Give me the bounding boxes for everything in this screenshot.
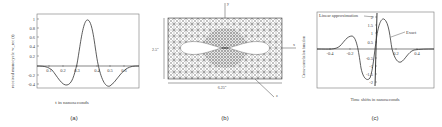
- panel-b: y x z 2.5" 6.25" (b): [150, 0, 300, 127]
- x-tick-label: 0.2: [60, 68, 66, 73]
- y-tick-label: 1: [371, 31, 373, 36]
- y-tick-label: -2: [369, 80, 373, 85]
- linear-approximation-annotation: Linear approximation: [319, 13, 359, 18]
- height-dimension-label: 2.5": [152, 47, 159, 52]
- panel-a: 10.80.60.40.2-0.2-0.4 0.10.20.30.40.50.6…: [0, 0, 150, 127]
- x-axis-label: x: [293, 42, 295, 47]
- plot-frame: [37, 14, 139, 88]
- y-tick-label: -0.2: [28, 73, 35, 78]
- z-axis-label: z: [276, 93, 278, 98]
- y-tick-label: 0.8: [29, 26, 35, 31]
- monocycle-curve: [37, 20, 139, 86]
- x-tick-label: 0.1: [46, 68, 52, 73]
- exact-annotation: Exact: [406, 30, 417, 35]
- y-tick-label: 0.5: [367, 40, 373, 45]
- y-tick-label: -0.4: [28, 82, 36, 87]
- x-tick-label: -0.4: [326, 51, 334, 56]
- received-monocycle-chart: 10.80.60.40.2-0.2-0.4 0.10.20.30.40.50.6…: [0, 0, 150, 127]
- caption-b: (b): [215, 115, 235, 121]
- y-tick-label: 1.5: [367, 23, 373, 28]
- z-axis-arrow: [255, 79, 274, 97]
- x-axis-label: Time shifts in nanoseconds: [351, 97, 400, 102]
- y-axis-label: y: [227, 1, 229, 6]
- x-tick-label: 0.4: [414, 51, 420, 56]
- y-axis-label: received monocycle w_rec (t): [10, 34, 15, 88]
- cross-correlation-chart: 21.510.5-0.5-1-1.5-2 -0.4-0.20.20.4 Line…: [300, 0, 442, 127]
- width-dimension-label: 6.25": [218, 85, 227, 90]
- y-axis-label: Cross-correlation function: [301, 36, 306, 78]
- y-ticks: 10.80.60.40.2-0.2-0.4: [28, 17, 39, 87]
- antenna-mesh-diagram: y x z 2.5" 6.25": [150, 0, 300, 127]
- panel-c: 21.510.5-0.5-1-1.5-2 -0.4-0.20.20.4 Line…: [300, 0, 442, 127]
- x-axis-label: t in nanoseconds: [55, 100, 88, 105]
- y-tick-label: -0.5: [366, 56, 374, 61]
- caption-c: (c): [365, 115, 385, 121]
- y-tick-label: 1: [33, 17, 35, 22]
- y-tick-label: 0.6: [29, 35, 35, 40]
- y-tick-label: 0.4: [29, 44, 35, 49]
- caption-a: (a): [64, 115, 84, 121]
- y-tick-label: 0.2: [29, 54, 35, 59]
- y-tick-label: -1.5: [366, 72, 374, 77]
- x-tick-label: 0.5: [107, 68, 113, 73]
- exact-annotation-pointer: [391, 32, 405, 37]
- x-tick-label: -0.2: [346, 51, 353, 56]
